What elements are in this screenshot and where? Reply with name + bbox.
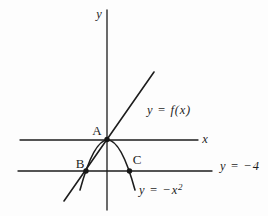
point-b-label: B (76, 156, 85, 171)
fx-line-label: y = f(x) (145, 103, 191, 117)
x-axis-label: x (201, 132, 208, 146)
y-axis-label: y (94, 7, 102, 21)
point-a-dot (104, 137, 109, 142)
figure-canvas: y x A B C y = f(x) y = −4 y = −x2 (0, 0, 268, 216)
fx-line (64, 72, 154, 201)
parabola-label: y = −x2 (137, 182, 183, 198)
parabola-label-base: y = −x (137, 183, 178, 197)
math-diagram: y x A B C y = f(x) y = −4 y = −x2 (0, 0, 268, 216)
point-a-label: A (92, 123, 102, 138)
point-c-dot (127, 168, 132, 173)
horizontal-line-label: y = −4 (218, 159, 260, 173)
point-c-label: C (133, 152, 142, 167)
parabola-label-exponent: 2 (178, 182, 183, 192)
